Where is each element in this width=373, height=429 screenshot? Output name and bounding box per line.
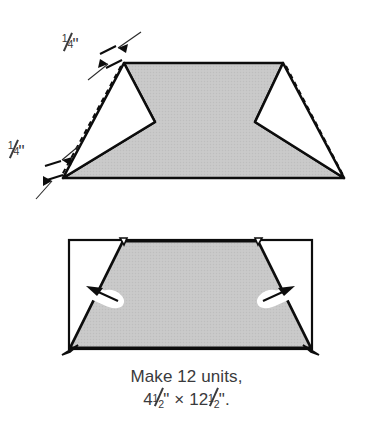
seam-top-denominator: 4: [67, 38, 73, 50]
seam-bottom-denominator: 4: [13, 145, 19, 157]
unit-height-whole: 12: [189, 390, 208, 409]
bottom-diagram-group: [62, 238, 319, 355]
arrowhead-bottom-lower: [43, 176, 52, 186]
seam-bottom-fraction: 14: [8, 140, 19, 157]
height-denominator: 2: [214, 393, 220, 416]
caption-line-dimensions: 412" × 1212".: [0, 388, 373, 411]
caption-line1-text: Make 12 units,: [131, 367, 243, 386]
tick-mark-bottom-inner: [47, 175, 63, 180]
width-inch-mark: ": [163, 390, 169, 409]
seam-top-fraction: 14: [62, 33, 73, 50]
arrowhead-top-upper: [118, 44, 128, 53]
caption-line-make-units: Make 12 units,: [0, 365, 373, 388]
seam-bottom-inch-mark: ": [19, 142, 25, 161]
leader-line-top-upper: [118, 32, 141, 48]
caption-period: .: [225, 390, 230, 409]
seam-top-inch-mark: ": [73, 35, 79, 54]
top-diagram-group: [36, 32, 344, 199]
seam-label-top-left: 14": [62, 33, 79, 55]
tick-mark-bottom-outer: [45, 161, 61, 166]
leader-line-top-lower: [88, 64, 108, 80]
unit-height-fraction: 12: [208, 388, 219, 405]
width-denominator: 2: [158, 393, 164, 416]
tick-mark-top-outer: [100, 46, 116, 54]
caption-block: Make 12 units, 412" × 1212".: [0, 365, 373, 411]
unit-width-whole: 4: [143, 390, 153, 409]
seam-label-bottom-left: 14": [8, 140, 25, 162]
times-symbol: ×: [174, 390, 184, 409]
unit-width-fraction: 12: [153, 388, 164, 405]
